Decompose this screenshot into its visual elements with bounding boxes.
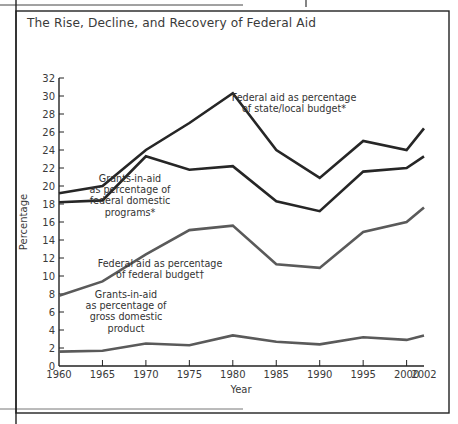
x-tick-label: 1995 xyxy=(350,369,375,380)
series-label-4: product xyxy=(108,323,145,334)
y-tick-label: 10 xyxy=(42,271,55,282)
x-tick-label: 2002 xyxy=(411,369,436,380)
y-tick-label: 6 xyxy=(49,307,55,318)
y-tick-label: 26 xyxy=(42,127,55,138)
x-tick-label: 1985 xyxy=(264,369,289,380)
y-tick-label: 4 xyxy=(49,325,55,336)
series-label-2: federal domestic xyxy=(90,195,171,206)
x-tick-label: 1980 xyxy=(220,369,245,380)
y-tick-label: 18 xyxy=(42,199,55,210)
x-tick-label: 1965 xyxy=(90,369,115,380)
series-line-3 xyxy=(59,208,424,296)
y-tick-label: 24 xyxy=(42,145,55,156)
series-line-4 xyxy=(59,335,424,351)
x-tick-label: 1975 xyxy=(177,369,202,380)
series-label-4: gross domestic xyxy=(90,311,163,322)
x-tick-label: 1970 xyxy=(133,369,158,380)
series-label-1: Federal aid as percentage xyxy=(232,92,357,103)
series-label-1: of state/local budget* xyxy=(242,103,346,114)
x-tick-label: 1990 xyxy=(307,369,332,380)
series-label-3: of federal budget† xyxy=(116,269,204,280)
axes: 0246810121416182022242628303219601965197… xyxy=(42,73,436,381)
x-tick-label: 1960 xyxy=(46,369,71,380)
y-tick-label: 2 xyxy=(49,343,55,354)
line-chart: 0246810121416182022242628303219601965197… xyxy=(0,0,458,424)
series-label-4: as percentage of xyxy=(86,300,167,311)
series-label-3: Federal aid as percentage xyxy=(98,258,223,269)
y-tick-label: 12 xyxy=(42,253,55,264)
x-axis-title: Year xyxy=(229,384,252,395)
y-tick-label: 28 xyxy=(42,109,55,120)
y-tick-label: 16 xyxy=(42,217,55,228)
series-label-2: Grants-in-aid xyxy=(99,173,161,184)
y-tick-label: 8 xyxy=(49,289,55,300)
y-tick-label: 20 xyxy=(42,181,55,192)
y-tick-label: 32 xyxy=(42,73,55,84)
series-annotations: Federal aid as percentageof state/local … xyxy=(86,92,357,334)
chart-frame xyxy=(16,11,449,413)
y-tick-label: 14 xyxy=(42,235,55,246)
series-label-2: programs* xyxy=(105,207,156,218)
y-axis-title: Percentage xyxy=(18,194,29,250)
series-label-4: Grants-in-aid xyxy=(95,289,157,300)
series-label-2: as percentage of xyxy=(90,184,171,195)
y-tick-label: 30 xyxy=(42,91,55,102)
y-tick-label: 22 xyxy=(42,163,55,174)
